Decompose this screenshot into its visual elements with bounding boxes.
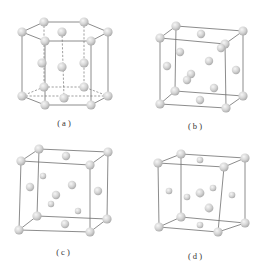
- panel-d-label: ( d ): [188, 251, 202, 261]
- atoms: [14, 144, 112, 236]
- panel-c-cubic-cell: ( c ): [14, 144, 112, 257]
- panel-c-label: ( c ): [56, 247, 70, 257]
- crystal-structures-figure: ( a ) ( b ): [0, 0, 260, 271]
- panel-a-label: ( a ): [57, 118, 71, 128]
- atoms: [155, 21, 247, 112]
- panel-a-hcp-cell: ( a ): [17, 17, 112, 128]
- panel-d-cubic-cell: ( d ): [153, 149, 249, 261]
- panel-b-label: ( b ): [188, 121, 202, 131]
- panel-b-cubic-cell: ( b ): [155, 21, 247, 131]
